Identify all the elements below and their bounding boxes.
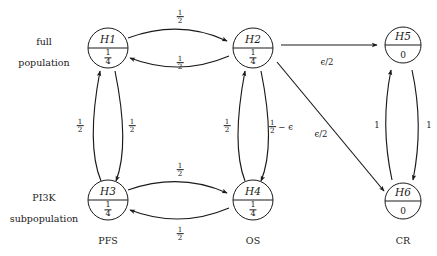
edge-label-h6-h5: 1 xyxy=(374,120,379,130)
edge-label-h4-h2: 1 2 xyxy=(224,118,231,134)
edge-h4-h2 xyxy=(238,71,245,181)
edge-label-h2-h4: 1 2 − ϵ xyxy=(269,119,293,135)
edge-h4-h3 xyxy=(130,208,229,219)
node-h2-value: 1 4 xyxy=(249,49,256,66)
edge-label-h4-h2-den: 2 xyxy=(224,127,231,134)
edge-label-h1-h3: 1 2 xyxy=(129,118,136,134)
edge-label-h3-h4: 1 2 xyxy=(177,162,184,178)
edge-h6-h5 xyxy=(386,70,392,180)
node-h2-value-den: 4 xyxy=(249,59,256,67)
edge-label-h2-h4-suffix: − ϵ xyxy=(276,122,293,132)
node-h1-value-den: 4 xyxy=(104,59,111,67)
edge-label-h3-h4-den: 2 xyxy=(177,171,184,178)
edge-h1-h3 xyxy=(115,71,123,181)
edge-label-h2-h5: ϵ/2 xyxy=(320,57,333,67)
region-label-population: population xyxy=(18,57,69,68)
edge-label-h1-h2: 1 2 xyxy=(177,9,184,25)
edge-label-h1-h2-den: 2 xyxy=(177,18,184,25)
edge-label-h2-h4-den: 2 xyxy=(269,128,276,135)
edge-label-h1-h3-den: 2 xyxy=(129,127,136,134)
edge-h2-h4 xyxy=(261,71,269,181)
region-label-subpopulation: subpopulation xyxy=(10,213,78,224)
column-label-pfs: PFS xyxy=(98,235,118,246)
node-h4-value-den: 4 xyxy=(249,211,256,219)
node-h3-value-den: 4 xyxy=(104,211,111,219)
node-h6-label: H6 xyxy=(395,186,411,198)
diagram-canvas: H1 1 4 H2 1 4 H5 0 H3 1 4 H4 1 4 H6 0 1 … xyxy=(0,0,437,256)
edge-label-h4-h3-den: 2 xyxy=(177,235,184,242)
edge-h1-h2 xyxy=(128,29,227,41)
edge-label-h5-h6: 1 xyxy=(426,120,431,130)
edge-h3-h1 xyxy=(93,71,101,181)
node-h5-label: H5 xyxy=(395,30,411,42)
column-label-os: OS xyxy=(246,235,260,246)
edge-label-h2-h1-den: 2 xyxy=(177,64,184,71)
node-h2-label: H2 xyxy=(245,33,261,45)
region-label-pi3k: PI3K xyxy=(32,192,55,203)
node-h3-value: 1 4 xyxy=(104,201,111,218)
edge-h5-h6 xyxy=(412,70,418,180)
node-h3-label: H3 xyxy=(100,185,116,197)
node-h6-value: 0 xyxy=(400,206,406,216)
edge-label-h3-h1-den: 2 xyxy=(77,127,84,134)
edge-label-h4-h3: 1 2 xyxy=(177,226,184,242)
node-h5-value: 0 xyxy=(400,50,406,60)
edge-label-h3-h1: 1 2 xyxy=(77,118,84,134)
column-label-cr: CR xyxy=(396,235,410,246)
node-h1-label: H1 xyxy=(100,33,116,45)
edge-h3-h4 xyxy=(128,182,227,193)
edge-label-h2-h6: ϵ/2 xyxy=(314,129,327,139)
node-h4-value: 1 4 xyxy=(249,201,256,218)
node-h4-label: H4 xyxy=(245,185,261,197)
edge-label-h2-h1: 1 2 xyxy=(177,55,184,71)
region-label-full: full xyxy=(36,36,52,47)
node-h1-value: 1 4 xyxy=(104,49,111,66)
